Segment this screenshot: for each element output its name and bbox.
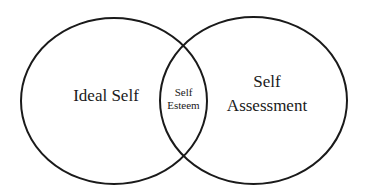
self-esteem-label: Self Esteem (160, 86, 207, 112)
self-esteem-label-line-2: Esteem (160, 99, 207, 112)
venn-diagram: Ideal Self Self Assessment Self Esteem (0, 0, 366, 196)
self-assessment-label-line-2: Assessment (214, 94, 320, 118)
self-assessment-label: Self Assessment (214, 70, 320, 118)
self-esteem-label-line-1: Self (160, 86, 207, 99)
self-assessment-label-line-1: Self (214, 70, 320, 94)
ideal-self-label: Ideal Self (62, 87, 150, 104)
